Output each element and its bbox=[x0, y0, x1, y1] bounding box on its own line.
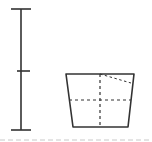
vessel-drawing bbox=[0, 0, 152, 142]
vessel-slant-line bbox=[100, 74, 131, 83]
vessel-profile bbox=[66, 74, 134, 127]
scale-bar bbox=[11, 9, 31, 130]
